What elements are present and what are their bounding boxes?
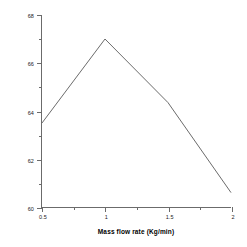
- y-axis-minor-tick: [39, 184, 42, 185]
- y-axis-tick-label: 64: [28, 110, 34, 116]
- x-axis-tick: 2: [232, 207, 233, 212]
- x-axis-title: Mass flow rate (Kg/min): [41, 228, 231, 235]
- y-axis-minor-tick: [39, 87, 42, 88]
- y-axis-tick-label: 66: [28, 61, 34, 67]
- x-axis-tick-label: 0.5: [39, 214, 47, 220]
- x-axis-tick-label: 1: [105, 214, 108, 220]
- chart-figure: 6062646668 0.511.52 Average efficiency η…: [0, 0, 247, 247]
- y-axis-tick: 62: [37, 160, 42, 161]
- y-axis-tick: 68: [37, 15, 42, 16]
- x-axis-tick: 1: [105, 207, 106, 212]
- y-axis-minor-tick: [39, 136, 42, 137]
- x-axis-tick-label: 2: [231, 214, 234, 220]
- y-axis-tick-label: 60: [28, 206, 34, 212]
- y-axis-minor-tick: [39, 39, 42, 40]
- y-axis-tick: 66: [37, 63, 42, 64]
- y-axis-tick-label: 68: [28, 13, 34, 19]
- plot-area: 6062646668 0.511.52: [41, 15, 231, 208]
- data-series-line: [42, 15, 231, 207]
- x-axis-minor-tick: [137, 207, 138, 210]
- x-axis-minor-tick: [74, 207, 75, 210]
- y-axis-tick-label: 62: [28, 158, 34, 164]
- x-axis-minor-tick: [200, 207, 201, 210]
- x-axis-tick-label: 1.5: [166, 214, 174, 220]
- x-axis-tick: 1.5: [169, 207, 170, 212]
- x-axis-tick: 0.5: [42, 207, 43, 212]
- y-axis-tick: 64: [37, 112, 42, 113]
